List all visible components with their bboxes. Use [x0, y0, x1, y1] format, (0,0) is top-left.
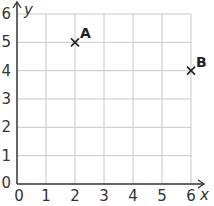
axes: y x: [13, 1, 209, 204]
x-tick-label: 3: [99, 187, 109, 205]
x-tick-label: 5: [157, 187, 167, 205]
x-tick-labels: 0123456: [14, 187, 196, 205]
coordinate-grid: y x 0123456 0123456 AB: [0, 0, 214, 206]
grid-lines: [17, 14, 191, 184]
x-tick-label: 4: [128, 187, 138, 205]
x-tick-label: 0: [14, 187, 24, 205]
data-points: AB: [71, 25, 207, 74]
y-tick-label: 5: [1, 33, 11, 51]
x-tick-label: 2: [70, 187, 80, 205]
y-tick-label: 4: [1, 62, 11, 80]
x-axis-label: x: [199, 186, 209, 204]
point-label: A: [80, 25, 91, 41]
y-tick-labels: 0123456: [1, 5, 11, 192]
y-tick-label: 1: [1, 147, 11, 165]
x-tick-label: 6: [186, 187, 196, 205]
point-b: B: [187, 54, 207, 75]
y-tick-label: 0: [1, 174, 11, 192]
point-a: A: [71, 25, 91, 46]
y-tick-label: 2: [1, 118, 11, 136]
y-tick-label: 3: [1, 90, 11, 108]
y-axis-label: y: [23, 1, 34, 19]
point-label: B: [196, 54, 207, 70]
x-tick-label: 1: [41, 187, 51, 205]
y-tick-label: 6: [1, 5, 11, 23]
